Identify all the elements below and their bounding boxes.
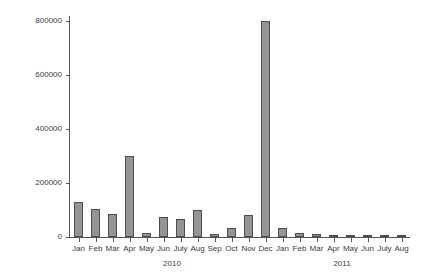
bar [397,235,407,237]
x-tick-label: Mar [106,243,120,254]
x-tick-label: Oct [225,243,237,254]
x-tick-mark [402,238,403,242]
bar [125,156,135,237]
x-tick-mark [317,238,318,242]
x-tick-mark [215,238,216,242]
y-tick-label: 800000 [35,15,62,26]
x-tick-label: Apr [123,243,135,254]
x-tick-mark [147,238,148,242]
bar-column [193,210,203,237]
y-tick-label: 400000 [35,123,62,134]
bar-column [108,214,118,237]
bar-column [380,236,390,238]
bar [159,217,169,237]
x-tick-mark [249,238,250,242]
bar-column [91,209,101,237]
x-tick-mark [334,238,335,242]
x-tick-label: Jun [361,243,374,254]
x-tick-mark [283,238,284,242]
bar-column [74,202,84,237]
bar-series [70,15,410,237]
x-tick-label: May [139,243,154,254]
bar-column [295,233,305,237]
bar-column [261,21,271,237]
x-tick-label: Sep [207,243,221,254]
x-tick-label: July [173,243,187,254]
bar [261,21,271,237]
bar-column [176,219,186,237]
x-tick-mark [351,238,352,242]
bar-column [312,234,322,237]
x-axis-group-label: 2011 [333,258,350,269]
y-tick-label: 600000 [35,69,62,80]
bar-column [244,215,254,237]
x-tick-mark [266,238,267,242]
bar [193,210,203,237]
y-tick-label: 0 [58,231,62,242]
bar-column [210,234,220,237]
x-tick-label: Dec [258,243,272,254]
bar [176,219,186,237]
bar-column [227,228,237,237]
bar-chart: 0200000400000600000800000 JanFebMarAprMa… [0,0,429,278]
y-tick-label: 200000 [35,177,62,188]
x-tick-mark [164,238,165,242]
bar [380,235,390,237]
x-tick-mark [113,238,114,242]
bar-column [278,228,288,237]
bar [108,214,118,237]
x-tick-label: Apr [327,243,339,254]
bar [312,234,322,237]
x-tick-mark [198,238,199,242]
x-tick-mark [385,238,386,242]
x-tick-mark [181,238,182,242]
bar-column [346,236,356,238]
bar [142,233,152,237]
bar [210,234,220,237]
bar [227,228,237,237]
bar [278,228,288,237]
bar [329,235,339,237]
bar-column [363,235,373,237]
bar-column [125,156,135,237]
bar [74,202,84,237]
x-tick-mark [232,238,233,242]
x-tick-label: Jan [72,243,85,254]
bar [91,209,101,237]
x-axis-line [69,237,410,238]
x-tick-label: Jun [157,243,170,254]
x-tick-label: July [377,243,391,254]
bar-column [159,217,169,237]
x-tick-mark [79,238,80,242]
x-tick-label: Mar [310,243,324,254]
x-axis-group-label: 2010 [163,258,181,269]
x-tick-label: Jan [276,243,289,254]
bar [363,235,373,237]
x-tick-label: Feb [293,243,307,254]
bar-column [329,236,339,238]
x-tick-label: Nov [241,243,255,254]
bar-column [142,233,152,237]
bar-column [397,236,407,238]
x-tick-label: Aug [190,243,204,254]
x-tick-label: Aug [394,243,408,254]
x-tick-mark [96,238,97,242]
x-tick-mark [300,238,301,242]
x-tick-mark [130,238,131,242]
bar [346,235,356,237]
bar [295,233,305,237]
x-tick-label: Feb [89,243,103,254]
x-tick-mark [368,238,369,242]
bar [244,215,254,237]
x-tick-label: May [343,243,358,254]
